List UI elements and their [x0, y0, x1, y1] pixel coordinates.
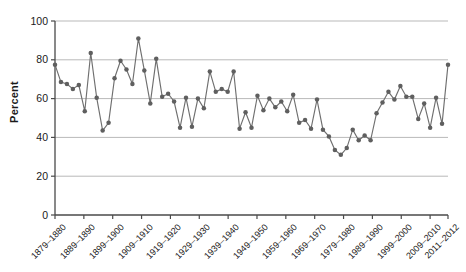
y-tick-label: 100: [30, 15, 48, 27]
data-point: [160, 94, 165, 99]
data-point: [380, 100, 385, 105]
data-point: [178, 125, 183, 130]
data-point: [59, 80, 64, 85]
data-point: [356, 138, 361, 143]
data-point: [214, 90, 219, 95]
data-point: [154, 57, 159, 62]
data-point: [303, 118, 308, 123]
data-point: [368, 138, 373, 143]
data-point: [202, 106, 207, 111]
data-point: [124, 67, 129, 72]
data-point: [77, 83, 82, 88]
data-point: [219, 87, 224, 92]
y-tick-labels-group: 020406080100: [30, 15, 48, 221]
data-point: [333, 148, 338, 153]
data-point: [392, 97, 397, 102]
data-point: [166, 92, 171, 97]
data-point: [315, 97, 320, 102]
gridlines-group: [55, 21, 448, 176]
data-point: [231, 69, 236, 74]
data-point: [422, 101, 427, 106]
data-point: [208, 69, 213, 74]
data-point: [255, 93, 260, 98]
data-point: [136, 36, 141, 41]
data-point: [321, 127, 326, 132]
data-point: [350, 127, 355, 132]
data-point: [404, 94, 409, 99]
data-point: [100, 128, 105, 133]
data-point: [249, 125, 254, 130]
data-point: [440, 122, 445, 127]
y-tick-label: 80: [36, 53, 48, 65]
y-tick-label: 20: [36, 170, 48, 182]
data-point: [273, 105, 278, 110]
data-point: [237, 126, 242, 131]
data-point: [94, 95, 99, 100]
data-point: [309, 126, 314, 131]
data-point: [446, 62, 451, 67]
data-point: [83, 109, 88, 114]
data-point: [148, 101, 153, 106]
voter-turnout-chart: Percent 020406080100 1879–18801889–18901…: [0, 0, 466, 272]
data-point: [225, 90, 230, 95]
data-point: [297, 121, 302, 126]
data-point: [410, 94, 415, 99]
data-point: [398, 84, 403, 89]
data-point: [327, 134, 332, 139]
data-point: [88, 51, 93, 56]
data-point: [172, 99, 177, 104]
data-point: [261, 108, 266, 113]
y-tick-label: 60: [36, 92, 48, 104]
data-point: [65, 82, 70, 87]
data-point: [130, 82, 135, 87]
data-point: [416, 117, 421, 122]
y-tick-label: 0: [42, 209, 48, 221]
data-point: [196, 96, 201, 101]
data-point: [291, 92, 296, 97]
data-point: [184, 95, 189, 100]
data-point: [106, 121, 111, 126]
data-point: [374, 111, 379, 116]
data-point: [71, 87, 76, 92]
data-point: [267, 96, 272, 101]
data-point: [362, 133, 367, 138]
data-point: [285, 109, 290, 114]
data-point: [243, 110, 248, 115]
data-point: [386, 90, 391, 95]
data-point: [190, 124, 195, 129]
data-point: [339, 153, 344, 158]
data-point: [112, 76, 117, 81]
data-point: [279, 99, 284, 104]
data-point: [118, 59, 123, 64]
y-tick-label: 40: [36, 131, 48, 143]
data-point: [142, 68, 147, 73]
data-point: [53, 62, 58, 67]
data-point: [345, 146, 350, 151]
data-point: [434, 95, 439, 100]
data-point: [428, 125, 433, 130]
